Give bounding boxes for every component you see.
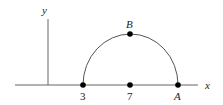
point-3-label: 3 <box>80 90 86 102</box>
semicircle-arc <box>83 34 178 85</box>
x-axis-label: x <box>204 79 210 91</box>
point-7-label: 7 <box>127 90 133 102</box>
point-3 <box>80 82 86 88</box>
semicircle-diagram: y x B 3 7 A <box>0 0 223 105</box>
point-A-label: A <box>173 90 181 102</box>
point-B <box>127 31 133 37</box>
y-axis-label: y <box>41 4 47 16</box>
point-A <box>175 82 181 88</box>
point-7-center <box>127 82 133 88</box>
point-B-label: B <box>126 18 133 30</box>
